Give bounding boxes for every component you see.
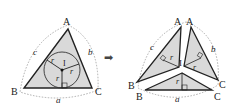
vertex-c1: C xyxy=(219,79,226,90)
right-figure: A A B B C C c b a I r r r xyxy=(128,16,226,104)
vertex-a1: A xyxy=(174,16,182,27)
side-c: c xyxy=(33,47,37,57)
side-b: b xyxy=(88,47,93,57)
left-figure: A B C c b a I r r r xyxy=(11,16,102,105)
side-b: b xyxy=(211,44,216,54)
side-c: c xyxy=(150,42,154,52)
incenter-label: I xyxy=(63,59,66,68)
diagram-svg: A B C c b a I r r r ➡ A A B B C C c b a … xyxy=(0,0,241,110)
vertex-a: A xyxy=(63,16,71,27)
side-a: a xyxy=(175,94,180,104)
diagram-canvas: A B C c b a I r r r ➡ A A B B C C c b a … xyxy=(0,0,241,110)
vertex-b2: B xyxy=(136,91,143,102)
side-a: a xyxy=(56,95,61,105)
vertex-a2: A xyxy=(186,16,194,27)
vertex-b1: B xyxy=(128,80,135,91)
triangle-aib xyxy=(137,27,181,82)
arrow-icon: ➡ xyxy=(104,51,113,64)
vertex-c2: C xyxy=(214,91,221,102)
vertex-b: B xyxy=(11,86,18,97)
incenter-label: I xyxy=(179,58,182,68)
incenter-dot xyxy=(61,69,64,72)
vertex-c: C xyxy=(95,86,102,97)
